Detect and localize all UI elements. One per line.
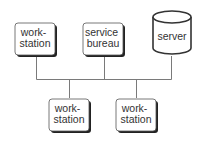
node-workstation-top-left: work- station (15, 23, 57, 57)
label-line-2: station (20, 37, 51, 49)
network-diagram: work- station service bureau server work… (0, 0, 199, 145)
cylinder-top (153, 11, 191, 23)
label-line-1: server (157, 30, 187, 42)
svg-text:work- station: work- station (121, 102, 152, 125)
svg-text:server: server (157, 30, 187, 42)
label-line-2: station (54, 113, 85, 125)
svg-text:work- station: work- station (54, 102, 85, 125)
svg-text:service bureau: service bureau (85, 26, 121, 49)
label-line-2: bureau (87, 37, 120, 49)
label-line-2: station (121, 113, 152, 125)
bus-connections (37, 56, 172, 98)
node-workstation-bottom-right: work- station (116, 99, 158, 133)
node-service-bureau: service bureau (83, 23, 125, 57)
node-workstation-bottom-left: work- station (49, 99, 91, 133)
svg-text:work- station: work- station (20, 26, 51, 49)
node-server: server (153, 11, 191, 54)
